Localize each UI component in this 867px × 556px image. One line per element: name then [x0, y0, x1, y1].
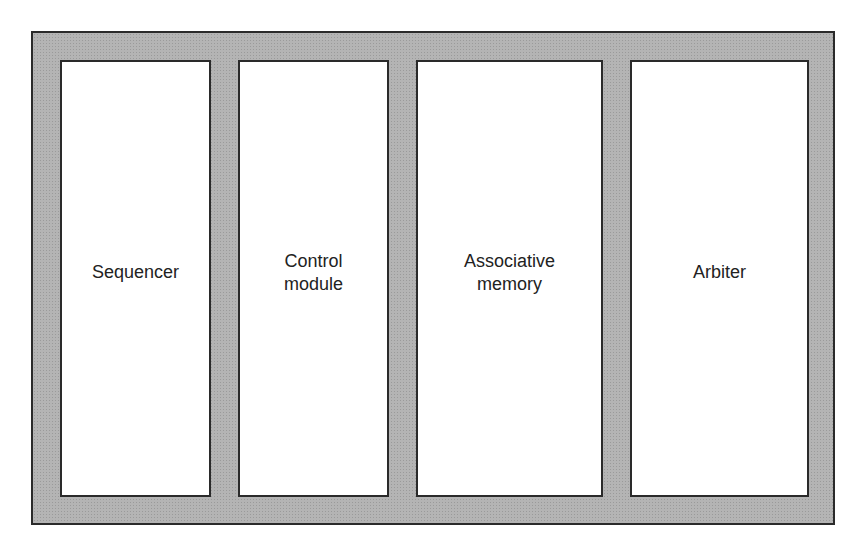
- associative-memory-label: Associative memory: [464, 250, 555, 296]
- control-module-block: Control module: [238, 60, 389, 497]
- associative-memory-block: Associative memory: [416, 60, 603, 497]
- sequencer-label: Sequencer: [92, 261, 179, 284]
- control-module-label: Control module: [284, 250, 343, 296]
- arbiter-block: Arbiter: [630, 60, 809, 497]
- arbiter-label: Arbiter: [693, 261, 746, 284]
- sequencer-block: Sequencer: [60, 60, 211, 497]
